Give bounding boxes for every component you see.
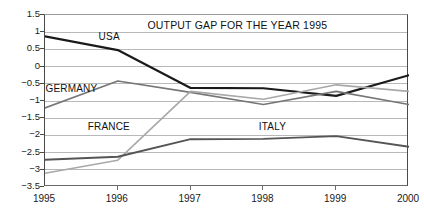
x-tick-mark bbox=[335, 186, 336, 190]
x-tick-mark bbox=[262, 186, 263, 190]
chart-title: OUTPUT GAP FOR THE YEAR 1995 bbox=[147, 19, 327, 31]
series-label-italy: ITALY bbox=[259, 121, 286, 132]
x-tick-label: 1995 bbox=[22, 194, 66, 204]
series-label-usa: USA bbox=[99, 31, 120, 42]
x-tick-label: 2000 bbox=[386, 194, 424, 204]
series-label-germany: GERMANY bbox=[45, 83, 97, 94]
output-gap-line-chart: 1.510.50−0.5−1−1.5−2−2.5−3−3.5 199519961… bbox=[0, 0, 424, 224]
x-tick-label: 1998 bbox=[240, 194, 284, 204]
x-tick-label: 1997 bbox=[168, 194, 212, 204]
x-tick-mark bbox=[117, 186, 118, 190]
x-tick-label: 1999 bbox=[313, 194, 357, 204]
x-tick-label: 1996 bbox=[95, 194, 139, 204]
x-axis: 199519961997199819992000 bbox=[0, 0, 424, 224]
series-label-france: FRANCE bbox=[88, 121, 130, 132]
x-tick-mark bbox=[190, 186, 191, 190]
